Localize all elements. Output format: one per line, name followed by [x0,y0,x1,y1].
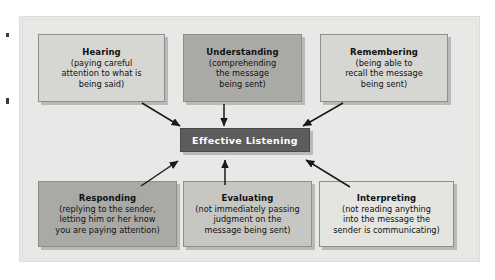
concept-description-hearing: (paying careful attention to what is bei… [61,58,141,89]
concept-box-hearing[interactable]: Hearing (paying careful attention to wha… [38,34,165,102]
concept-title-responding: Responding [79,193,136,204]
concept-description-interpreting: (not reading anything into the message t… [333,204,440,235]
concept-title-understanding: Understanding [206,47,278,58]
concept-description-understanding: (comprehending the message being sent) [209,58,276,89]
concept-title-hearing: Hearing [82,47,121,58]
scan-artifact-lower [6,98,9,104]
concept-box-effective-listening[interactable]: Effective Listening [180,128,310,152]
center-box-label: Effective Listening [192,135,298,146]
concept-description-evaluating: (not immediately passing judgment on the… [195,204,299,235]
concept-description-responding: (replying to the sender, letting him or … [55,204,159,235]
concept-title-interpreting: Interpreting [357,193,417,204]
concept-title-evaluating: Evaluating [222,193,274,204]
scan-artifact-upper [6,33,9,37]
figure-root: Hearing (paying careful attention to wha… [0,0,495,280]
diagram-frame: Hearing (paying careful attention to wha… [19,16,480,262]
concept-box-evaluating[interactable]: Evaluating (not immediately passing judg… [183,181,312,247]
concept-box-interpreting[interactable]: Interpreting (not reading anything into … [319,181,454,247]
concept-box-responding[interactable]: Responding (replying to the sender, lett… [38,181,177,247]
concept-title-remembering: Remembering [350,47,418,58]
concept-box-understanding[interactable]: Understanding (comprehending the message… [183,34,302,102]
concept-description-remembering: (being able to recall the message being … [345,58,423,89]
concept-box-remembering[interactable]: Remembering (being able to recall the me… [320,34,448,102]
